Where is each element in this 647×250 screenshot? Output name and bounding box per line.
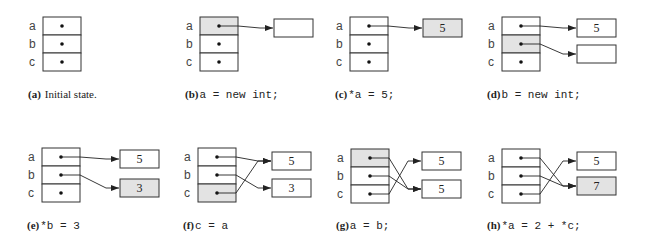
heap-value: 5 bbox=[440, 21, 446, 35]
pointer-dot-c bbox=[60, 60, 64, 64]
heap-box bbox=[577, 45, 616, 63]
variable-label-b: b bbox=[488, 169, 495, 183]
caption-letter: (a) bbox=[28, 88, 41, 101]
pointer-dot-c bbox=[367, 60, 371, 64]
caption-text: *b = 3 bbox=[40, 220, 80, 232]
pointer-dot-b bbox=[217, 42, 221, 46]
panel-caption: (g)a = b; bbox=[336, 219, 389, 232]
panel-b: abc(b)a = new int; bbox=[185, 17, 313, 101]
caption-text: b = new int; bbox=[501, 89, 580, 101]
caption-text: a = b; bbox=[350, 220, 390, 232]
caption-text: c = a bbox=[195, 220, 228, 232]
panel-f: abc53(f)c = a bbox=[183, 148, 311, 232]
heap-value: 5 bbox=[439, 182, 445, 196]
heap-value: 5 bbox=[594, 21, 600, 35]
caption-letter: (e) bbox=[27, 219, 40, 232]
panel-g: abc55(g)a = b; bbox=[336, 149, 461, 232]
variable-label-b: b bbox=[336, 37, 343, 51]
panel-c: abc5(c)*a = 5; bbox=[335, 17, 462, 101]
panel-a: abc(a)Initial state. bbox=[28, 17, 97, 101]
pointer-diagram: abc(a)Initial state.abc(b)a = new int;ab… bbox=[0, 0, 647, 250]
variable-label-c: c bbox=[337, 187, 343, 201]
heap-value: 7 bbox=[594, 179, 600, 193]
heap-value: 5 bbox=[289, 154, 295, 168]
variable-label-a: a bbox=[29, 19, 36, 33]
pointer-dot-b bbox=[367, 42, 371, 46]
variable-label-a: a bbox=[186, 19, 193, 33]
variable-label-a: a bbox=[184, 150, 191, 164]
caption-letter: (h) bbox=[487, 219, 501, 232]
pointer-dot-a bbox=[60, 24, 64, 28]
variable-label-c: c bbox=[488, 55, 494, 69]
panel-caption: (c)*a = 5; bbox=[335, 88, 394, 101]
caption-letter: (f) bbox=[183, 219, 194, 232]
panel-e: abc53(e)*b = 3 bbox=[27, 148, 159, 232]
panel-caption: (b)a = new int; bbox=[185, 88, 279, 101]
heap-value: 5 bbox=[439, 154, 445, 168]
variable-label-b: b bbox=[29, 37, 36, 51]
variable-label-b: b bbox=[186, 37, 193, 51]
heap-value: 5 bbox=[137, 152, 143, 166]
caption-text: a = new int; bbox=[199, 89, 278, 101]
panel-caption: (f)c = a bbox=[183, 219, 228, 232]
caption-text: *a = 2 + *c; bbox=[501, 220, 580, 232]
panel-h: abc57(h)*a = 2 + *c; bbox=[487, 149, 616, 232]
caption-text: *a = 5; bbox=[348, 89, 394, 101]
caption-letter: (b) bbox=[185, 88, 199, 101]
panel-d: abc5(d)b = new int; bbox=[487, 17, 616, 101]
variable-label-c: c bbox=[186, 55, 192, 69]
heap-value: 5 bbox=[594, 154, 600, 168]
variable-label-c: c bbox=[488, 187, 494, 201]
pointer-dot-c bbox=[217, 60, 221, 64]
variable-label-a: a bbox=[488, 19, 495, 33]
variable-label-b: b bbox=[488, 37, 495, 51]
panel-caption: (d)b = new int; bbox=[487, 88, 581, 101]
variable-label-c: c bbox=[28, 186, 34, 200]
pointer-dot-b bbox=[60, 42, 64, 46]
panel-caption: (e)*b = 3 bbox=[27, 219, 80, 232]
heap-value: 3 bbox=[289, 181, 295, 195]
variable-label-b: b bbox=[184, 168, 191, 182]
variable-label-c: c bbox=[184, 186, 190, 200]
caption-letter: (d) bbox=[487, 88, 501, 101]
variable-label-c: c bbox=[29, 55, 35, 69]
variable-label-a: a bbox=[337, 151, 344, 165]
variable-label-a: a bbox=[336, 19, 343, 33]
caption-letter: (g) bbox=[336, 219, 349, 232]
heap-value: 3 bbox=[137, 181, 143, 195]
caption-letter: (c) bbox=[335, 88, 348, 101]
variable-label-a: a bbox=[488, 151, 495, 165]
pointer-dot-c bbox=[59, 191, 63, 195]
panel-caption: (a)Initial state. bbox=[28, 88, 97, 101]
variable-label-b: b bbox=[28, 168, 35, 182]
variable-label-a: a bbox=[28, 150, 35, 164]
pointer-dot-c bbox=[519, 60, 523, 64]
variable-label-b: b bbox=[337, 169, 344, 183]
caption-text: Initial state. bbox=[45, 88, 97, 100]
variable-label-c: c bbox=[336, 55, 342, 69]
heap-box bbox=[274, 19, 313, 37]
panel-caption: (h)*a = 2 + *c; bbox=[487, 219, 581, 232]
